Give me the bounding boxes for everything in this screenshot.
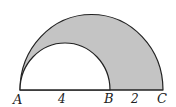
segment-label-ab: 4 [57, 92, 66, 106]
point-label-c: C [157, 91, 167, 106]
semicircle-diagram: A 4 B 2 C [0, 0, 176, 107]
point-label-a: A [12, 92, 22, 107]
point-label-b: B [103, 91, 114, 106]
segment-label-bc: 2 [130, 92, 139, 106]
